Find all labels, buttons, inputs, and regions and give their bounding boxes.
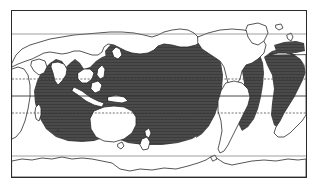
isolated-record-marker — [57, 130, 60, 133]
land-madagascar — [35, 104, 41, 121]
world-distribution-map-figure — [0, 0, 316, 189]
map-canvas — [12, 11, 306, 177]
map-frame — [11, 10, 307, 178]
